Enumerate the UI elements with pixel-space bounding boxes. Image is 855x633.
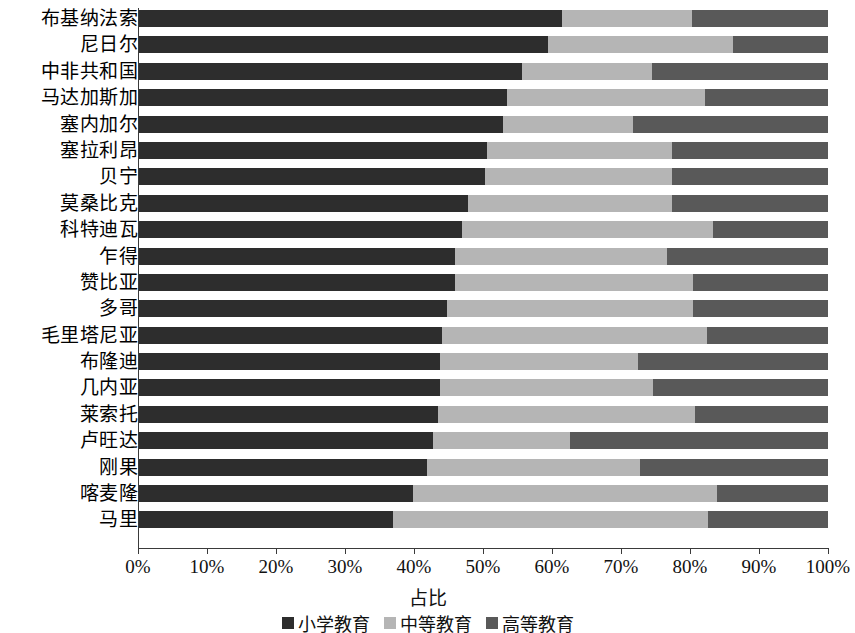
category-label: 几内亚	[80, 377, 139, 403]
x-axis-tick	[828, 548, 829, 554]
legend-swatch-icon	[486, 617, 498, 629]
x-axis-tick-label: 60%	[535, 556, 570, 578]
category-label: 尼日尔	[80, 34, 139, 60]
bar-segment	[485, 168, 672, 185]
bar-segment	[507, 89, 705, 106]
bar-segment	[138, 485, 413, 502]
bar-row: 马里	[0, 509, 855, 535]
bar-row: 喀麦隆	[0, 483, 855, 509]
bar-segment	[138, 353, 440, 370]
bar-segment	[652, 63, 828, 80]
bar-segment	[717, 485, 828, 502]
bar-segment	[653, 379, 828, 396]
bar-segment	[138, 10, 562, 27]
category-label: 乍得	[99, 246, 138, 272]
x-axis-tick-label: 50%	[466, 556, 501, 578]
stacked-bar	[138, 248, 828, 265]
stacked-bar	[138, 327, 828, 344]
bar-segment	[713, 221, 828, 238]
bar-segment	[672, 168, 828, 185]
bar-segment	[393, 511, 708, 528]
bar-segment	[562, 10, 692, 27]
stacked-bar	[138, 63, 828, 80]
stacked-bar	[138, 485, 828, 502]
x-axis-tick	[483, 548, 484, 554]
x-axis-tick-label: 100%	[806, 556, 850, 578]
bar-row: 几内亚	[0, 377, 855, 403]
bar-row: 莱索托	[0, 404, 855, 430]
stacked-bar	[138, 36, 828, 53]
x-axis-tick	[207, 548, 208, 554]
x-axis-tick-label: 20%	[259, 556, 294, 578]
stacked-bar	[138, 459, 828, 476]
stacked-bar	[138, 89, 828, 106]
legend-item: 高等教育	[486, 610, 574, 633]
bar-segment	[487, 142, 672, 159]
x-axis-tick	[759, 548, 760, 554]
x-axis-tick	[276, 548, 277, 554]
stacked-bar	[138, 274, 828, 291]
bar-segment	[427, 459, 640, 476]
bar-row: 塞拉利昂	[0, 140, 855, 166]
x-axis-tick-label: 80%	[673, 556, 708, 578]
x-axis-tick	[552, 548, 553, 554]
x-axis-tick	[345, 548, 346, 554]
bar-row: 毛里塔尼亚	[0, 325, 855, 351]
x-axis-tick-label: 90%	[742, 556, 777, 578]
x-axis-title: 占比	[0, 583, 855, 610]
bar-segment	[570, 432, 828, 449]
bar-segment	[138, 63, 522, 80]
bar-segment	[633, 116, 828, 133]
bar-segment	[693, 300, 828, 317]
bar-segment	[672, 142, 828, 159]
stacked-bar	[138, 195, 828, 212]
x-axis-tick-label: 10%	[190, 556, 225, 578]
stacked-bar	[138, 300, 828, 317]
legend-label: 中等教育	[400, 610, 472, 633]
legend-label: 高等教育	[502, 610, 574, 633]
category-label: 赞比亚	[80, 272, 139, 298]
bar-segment	[138, 379, 440, 396]
bar-segment	[705, 89, 828, 106]
category-label: 莱索托	[80, 404, 139, 430]
bar-segment	[138, 406, 438, 423]
bar-segment	[455, 248, 667, 265]
bar-row: 贝宁	[0, 166, 855, 192]
bar-segment	[693, 274, 828, 291]
x-axis-tick	[138, 548, 139, 554]
bar-row: 刚果	[0, 457, 855, 483]
bar-segment	[640, 459, 828, 476]
bar-segment	[138, 274, 455, 291]
bar-row: 布基纳法索	[0, 8, 855, 34]
stacked-bar-chart: 布基纳法索尼日尔中非共和国马达加斯加塞内加尔塞拉利昂贝宁莫桑比克科特迪瓦乍得赞比…	[0, 0, 855, 633]
category-label: 卢旺达	[80, 430, 139, 456]
category-label: 中非共和国	[41, 61, 139, 87]
bar-segment	[438, 406, 695, 423]
bar-segment	[138, 327, 442, 344]
x-axis-tick	[621, 548, 622, 554]
bar-segment	[138, 221, 462, 238]
bar-segment	[138, 248, 455, 265]
bar-segment	[447, 300, 693, 317]
bar-segment	[462, 221, 713, 238]
bar-row: 中非共和国	[0, 61, 855, 87]
chart-legend: 小学教育中等教育高等教育	[0, 610, 855, 633]
stacked-bar	[138, 379, 828, 396]
bar-segment	[440, 353, 638, 370]
category-label: 塞内加尔	[60, 114, 138, 140]
bar-row: 赞比亚	[0, 272, 855, 298]
bar-segment	[468, 195, 672, 212]
bar-row: 塞内加尔	[0, 114, 855, 140]
bar-row: 尼日尔	[0, 34, 855, 60]
bar-segment	[692, 10, 828, 27]
bar-segment	[442, 327, 708, 344]
bar-row: 布隆迪	[0, 351, 855, 377]
stacked-bar	[138, 353, 828, 370]
bar-segment	[138, 116, 503, 133]
bar-segment	[138, 89, 507, 106]
plot-area: 布基纳法索尼日尔中非共和国马达加斯加塞内加尔塞拉利昂贝宁莫桑比克科特迪瓦乍得赞比…	[0, 0, 855, 556]
bar-segment	[138, 195, 468, 212]
bar-segment	[138, 459, 427, 476]
legend-swatch-icon	[282, 617, 294, 629]
bar-segment	[138, 142, 487, 159]
